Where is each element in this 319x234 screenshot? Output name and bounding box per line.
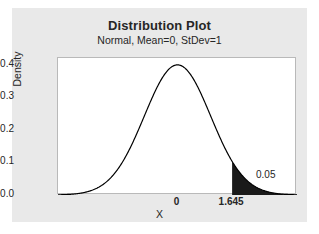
y-tick-label-0.4: 0.4 — [0, 58, 14, 69]
x-axis-label: X — [12, 208, 307, 220]
figure-panel: Distribution Plot Normal, Mean=0, StDev=… — [12, 8, 307, 222]
x-tick-label-0: 0 — [147, 196, 207, 207]
y-tick-label-0.2: 0.2 — [0, 123, 14, 134]
chart-title: Distribution Plot — [12, 18, 307, 33]
y-tick-label-0.0: 0.0 — [0, 188, 14, 199]
x-tick-label-1.645: 1.645 — [201, 196, 261, 207]
y-tick-label-0.3: 0.3 — [0, 90, 14, 101]
chart-screenshot: Distribution Plot Normal, Mean=0, StDev=… — [0, 0, 319, 234]
chart-subtitle: Normal, Mean=0, StDev=1 — [12, 34, 307, 46]
y-tick-label-0.1: 0.1 — [0, 155, 14, 166]
tail-probability-annotation: 0.05 — [256, 169, 275, 180]
